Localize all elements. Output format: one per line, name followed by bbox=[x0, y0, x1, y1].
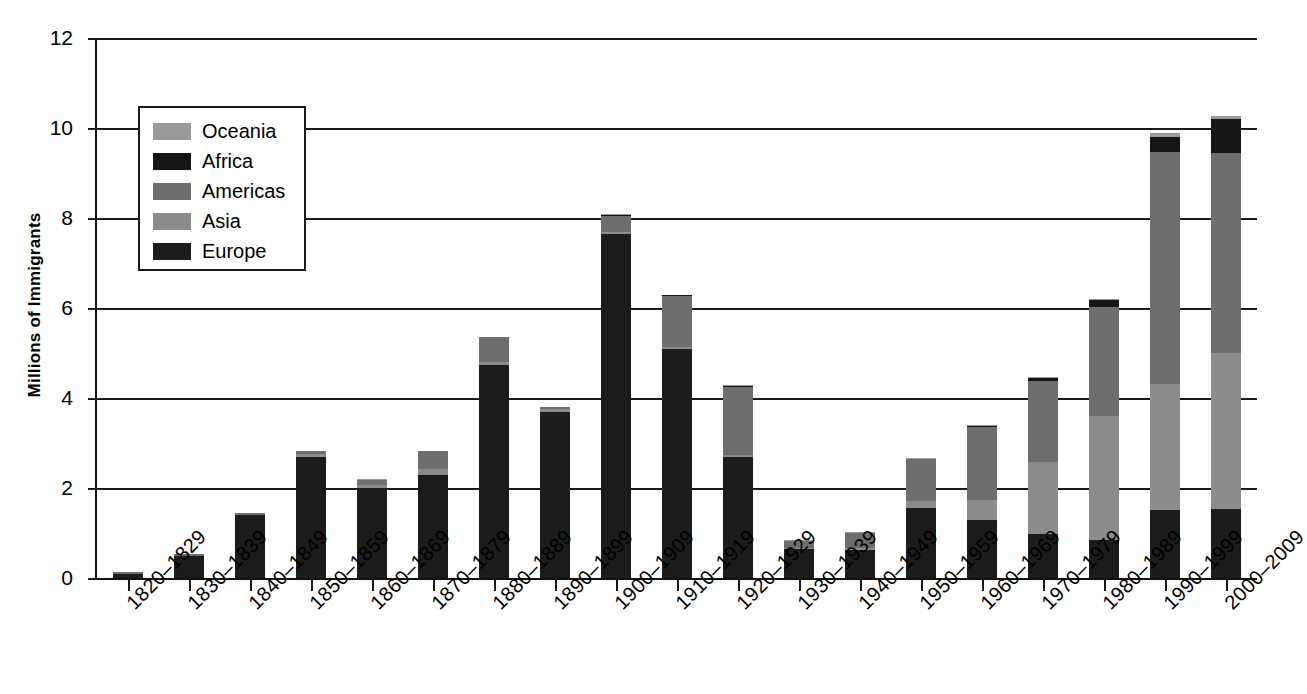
y-tick-label-12: 12 bbox=[13, 26, 73, 50]
legend-label-oceania: Oceania bbox=[202, 121, 277, 141]
y-tick-mark-12 bbox=[88, 38, 97, 40]
bar-segment-africa bbox=[1150, 137, 1180, 153]
bar-segment-europe bbox=[601, 234, 631, 578]
bar-segment-americas bbox=[1150, 152, 1180, 383]
legend-swatch-africa bbox=[153, 153, 191, 170]
legend-label-europe: Europe bbox=[202, 241, 267, 261]
y-tick-mark-6 bbox=[88, 308, 97, 310]
bar-segment-asia bbox=[1089, 416, 1119, 540]
legend-item-africa[interactable]: Africa bbox=[140, 146, 304, 176]
legend-swatch-americas bbox=[153, 183, 191, 200]
bar-segment-americas bbox=[906, 459, 936, 501]
bar-segment-americas bbox=[1089, 307, 1119, 416]
y-tick-mark-4 bbox=[88, 398, 97, 400]
y-tick-mark-8 bbox=[88, 218, 97, 220]
y-tick-label-6: 6 bbox=[13, 296, 73, 320]
bar-segment-asia bbox=[1028, 462, 1058, 534]
bar-segment-americas bbox=[1211, 153, 1241, 353]
legend-swatch-europe bbox=[153, 243, 191, 260]
legend-label-americas: Americas bbox=[202, 181, 285, 201]
legend-label-africa: Africa bbox=[202, 151, 253, 171]
y-tick-label-8: 8 bbox=[13, 206, 73, 230]
y-tick-label-0: 0 bbox=[13, 566, 73, 590]
bar-segment-africa bbox=[1211, 119, 1241, 153]
y-tick-mark-0 bbox=[88, 578, 97, 580]
bar-2000–2009[interactable] bbox=[1211, 116, 1241, 578]
bar-segment-asia bbox=[1150, 384, 1180, 510]
bar-segment-americas bbox=[601, 216, 631, 232]
chart-legend: OceaniaAfricaAmericasAsiaEurope bbox=[138, 106, 306, 271]
bar-segment-americas bbox=[723, 387, 753, 455]
y-tick-label-2: 2 bbox=[13, 476, 73, 500]
bar-1990–1999[interactable] bbox=[1150, 133, 1180, 578]
bar-segment-americas bbox=[662, 296, 692, 347]
legend-item-americas[interactable]: Americas bbox=[140, 176, 304, 206]
bar-segment-americas bbox=[418, 451, 448, 469]
y-tick-mark-2 bbox=[88, 488, 97, 490]
legend-swatch-oceania bbox=[153, 123, 191, 140]
bar-segment-asia bbox=[967, 500, 997, 519]
bar-1900–1909[interactable] bbox=[601, 214, 631, 578]
bar-segment-asia bbox=[1211, 353, 1241, 509]
legend-item-oceania[interactable]: Oceania bbox=[140, 116, 304, 146]
y-tick-label-4: 4 bbox=[13, 386, 73, 410]
bar-segment-americas bbox=[1028, 381, 1058, 462]
legend-item-asia[interactable]: Asia bbox=[140, 206, 304, 236]
y-tick-mark-10 bbox=[88, 128, 97, 130]
y-tick-label-10: 10 bbox=[13, 116, 73, 140]
legend-item-europe[interactable]: Europe bbox=[140, 236, 304, 266]
legend-swatch-asia bbox=[153, 213, 191, 230]
bar-segment-americas bbox=[967, 427, 997, 500]
bar-segment-americas bbox=[479, 337, 509, 362]
legend-label-asia: Asia bbox=[202, 211, 241, 231]
bar-segment-asia bbox=[906, 501, 936, 508]
